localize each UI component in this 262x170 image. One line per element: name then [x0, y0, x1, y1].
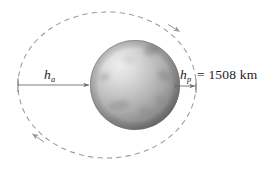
apoapsis-subscript: a	[51, 75, 55, 84]
orbit-direction-arrow-bottom	[34, 135, 44, 142]
periapsis-symbol: h	[180, 67, 187, 82]
periapsis-value-label: = 1508 km	[197, 68, 257, 82]
orbital-diagram-figure: ha hp = 1508 km	[0, 0, 262, 170]
planet-sphere	[90, 40, 180, 130]
orbit-direction-arrow-top	[168, 25, 178, 31]
apoapsis-symbol: h	[44, 67, 51, 82]
orbital-diagram-canvas	[0, 0, 262, 170]
apoapsis-label: ha	[44, 68, 55, 82]
periapsis-subscript: p	[187, 75, 191, 84]
periapsis-label: hp	[180, 68, 191, 82]
